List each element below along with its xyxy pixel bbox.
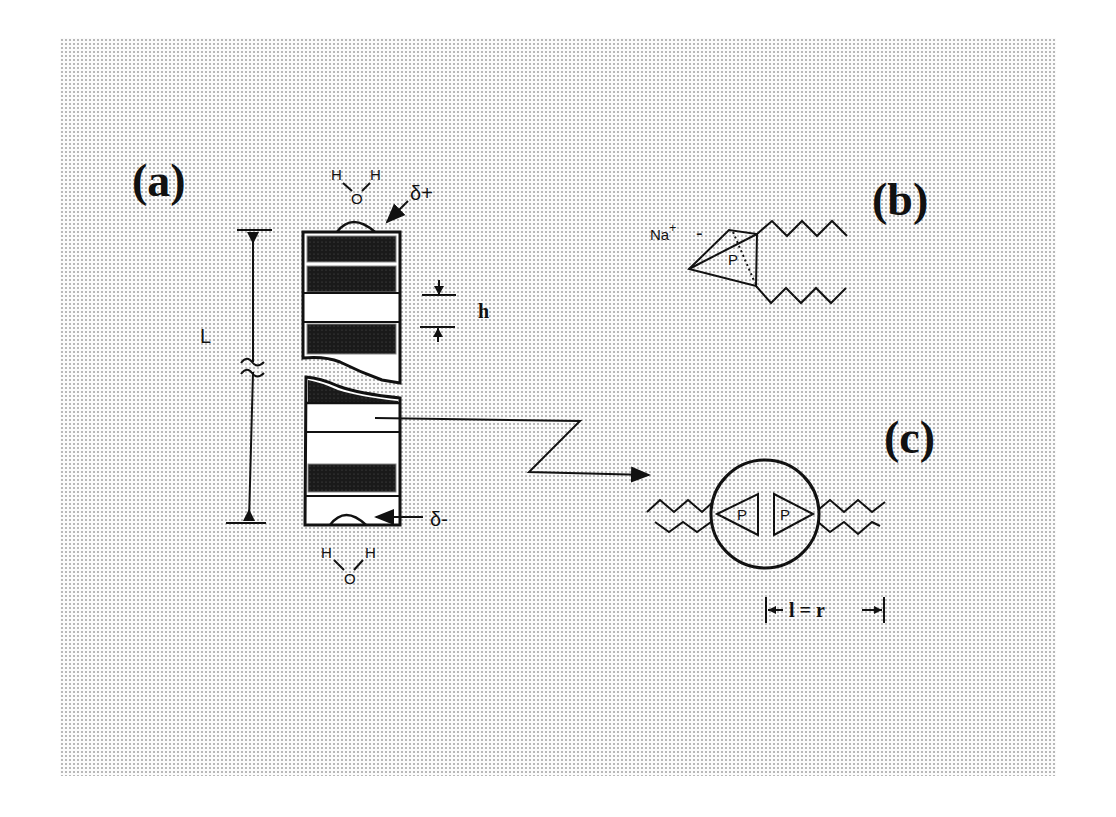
radius-dimension: l = r xyxy=(766,597,884,623)
micelle-circle xyxy=(711,460,819,568)
h-atom: H xyxy=(331,166,342,183)
phosphorus-label: P xyxy=(728,251,738,268)
band-dark xyxy=(308,464,396,492)
band-dark xyxy=(307,266,396,292)
phosphorus-label: P xyxy=(780,506,790,523)
band-dark xyxy=(307,236,396,262)
tail-right-lower xyxy=(818,522,880,534)
diagram-canvas: (a) H H O δ+ xyxy=(0,0,1116,817)
band-dark xyxy=(307,324,396,354)
length-dimension: L xyxy=(200,230,272,523)
tail-left-lower xyxy=(655,522,711,532)
delta-plus-label: δ+ xyxy=(410,182,433,204)
phosphorus-label: P xyxy=(737,506,747,523)
figure: (a) H H O δ+ xyxy=(0,0,1116,817)
sodium-ion-label: Na+ xyxy=(650,221,676,243)
panel-c-label: (c) xyxy=(884,412,935,463)
radius-label: l = r xyxy=(789,599,825,621)
tail-right-upper xyxy=(818,500,885,512)
panel-a-label: (a) xyxy=(132,155,186,206)
band-height-dimension: h xyxy=(420,280,489,342)
panel-b: (b) Na+ - P xyxy=(650,174,928,303)
negative-charge-label: - xyxy=(696,222,703,244)
water-molecule-bottom: H H O xyxy=(321,544,376,587)
delta-minus-label: δ- xyxy=(430,508,448,530)
tail-left-upper xyxy=(647,500,713,512)
h-atom: H xyxy=(321,544,332,561)
band-height-label: h xyxy=(478,300,489,322)
column-lower xyxy=(305,377,400,525)
water-molecule-top: H H O xyxy=(331,166,381,207)
length-label: L xyxy=(200,325,211,347)
panel-c: (c) P P l = r xyxy=(647,412,935,623)
panel-a: (a) H H O δ+ xyxy=(132,155,649,587)
hydrocarbon-tail xyxy=(757,221,847,236)
h-atom: H xyxy=(370,166,381,183)
h-atom: H xyxy=(365,544,376,561)
o-atom: O xyxy=(344,570,356,587)
hydrocarbon-tail xyxy=(756,286,846,303)
panel-b-label: (b) xyxy=(872,174,928,225)
column-upper xyxy=(303,232,400,383)
zoom-connector-arrow xyxy=(375,418,649,475)
o-atom: O xyxy=(351,190,363,207)
